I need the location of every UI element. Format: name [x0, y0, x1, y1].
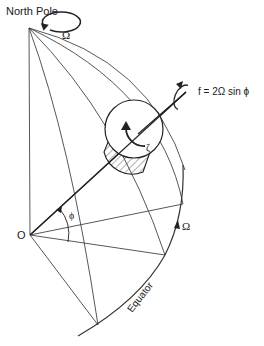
zeta-label: ζ	[146, 142, 150, 154]
equator-label: Equator	[125, 279, 156, 314]
coriolis-rotation-arrow-icon	[170, 81, 189, 109]
origin-label: O	[17, 229, 26, 241]
phi-angle-arc	[59, 208, 69, 242]
phi-label: ϕ	[69, 210, 74, 221]
fluid-column-cylinder	[30, 92, 186, 235]
earth-rotation-diagram: North Pole Ω Ω Equator O ϕ ζ	[0, 0, 264, 346]
coriolis-parameter-label: f = 2Ω sin ϕ	[198, 86, 250, 97]
pole-rotation-arrow-icon	[41, 12, 81, 32]
north-pole-label: North Pole	[6, 5, 58, 17]
radius-lines	[30, 204, 183, 325]
meridian-lines	[29, 28, 185, 325]
equator-omega-label: Ω	[182, 220, 190, 232]
